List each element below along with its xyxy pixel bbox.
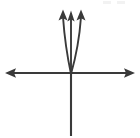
graph-figure xyxy=(0,0,140,138)
top-right-artifact-left xyxy=(103,1,111,4)
left-branch-curve xyxy=(63,17,71,74)
coordinate-graph xyxy=(0,0,140,138)
right-branch-curve xyxy=(71,17,81,74)
top-right-artifact-right xyxy=(117,1,125,4)
